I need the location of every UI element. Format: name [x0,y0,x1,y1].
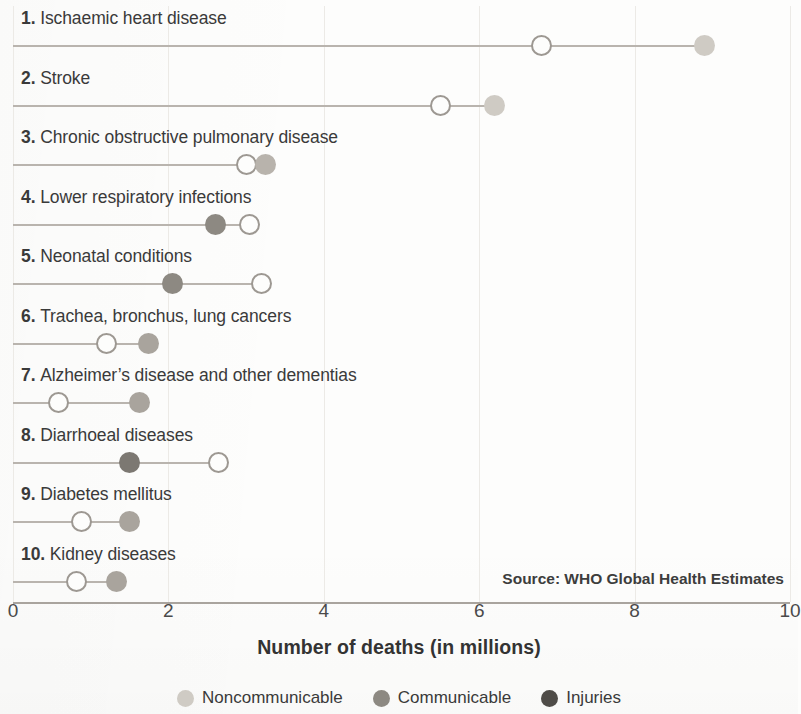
row-track [13,283,262,285]
row-rank: 2. [21,68,40,88]
legend-swatch-icon [373,690,390,707]
legend-swatch-icon [541,690,558,707]
row-label: 7. Alzheimer’s disease and other dementi… [21,365,357,386]
data-point-filled[interactable] [119,452,140,473]
data-point-filled[interactable] [162,273,183,294]
row-track [13,581,116,583]
data-point-hollow[interactable] [71,511,92,532]
row-track [13,45,705,47]
x-tick-label: 0 [8,600,19,622]
chart-row: 6. Trachea, bronchus, lung cancers [13,306,790,366]
row-track [13,462,219,464]
row-track [13,343,149,345]
row-label: 3. Chronic obstructive pulmonary disease [21,127,338,148]
chart-row: 7. Alzheimer’s disease and other dementi… [13,365,790,425]
row-label: 10. Kidney diseases [21,544,176,565]
data-point-hollow[interactable] [251,273,272,294]
data-point-filled[interactable] [694,35,715,56]
row-label: 6. Trachea, bronchus, lung cancers [21,306,291,327]
row-label: 5. Neonatal conditions [21,246,192,267]
row-name: Alzheimer’s disease and other dementias [40,365,356,385]
row-label: 8. Diarrhoeal diseases [21,425,193,446]
row-rank: 4. [21,187,40,207]
data-point-hollow[interactable] [96,333,117,354]
x-tick-label: 2 [163,600,174,622]
row-label: 4. Lower respiratory infections [21,187,251,208]
row-track [13,164,266,166]
row-name: Lower respiratory infections [40,187,251,207]
x-tick-label: 10 [779,600,800,622]
legend-swatch-icon [177,690,194,707]
chart-row: 4. Lower respiratory infections [13,187,790,247]
row-name: Ischaemic heart disease [40,8,226,28]
row-label: 9. Diabetes mellitus [21,484,172,505]
legend-item[interactable]: Injuries [541,688,621,708]
row-name: Chronic obstructive pulmonary disease [40,127,338,147]
row-name: Stroke [40,68,90,88]
gridline [790,6,791,602]
row-rank: 5. [21,246,40,266]
source-note: Source: WHO Global Health Estimates [502,570,784,588]
row-name: Diabetes mellitus [40,484,172,504]
chart-row: 9. Diabetes mellitus [13,484,790,544]
legend-item[interactable]: Noncommunicable [177,688,343,708]
data-point-filled[interactable] [484,95,505,116]
row-label: 1. Ischaemic heart disease [21,8,227,29]
row-rank: 1. [21,8,40,28]
plot-area: 1. Ischaemic heart disease2. Stroke3. Ch… [13,6,790,602]
row-name: Diarrhoeal diseases [40,425,193,445]
row-rank: 7. [21,365,40,385]
data-point-filled[interactable] [129,392,150,413]
row-rank: 6. [21,306,40,326]
row-rank: 9. [21,484,40,504]
row-rank: 3. [21,127,40,147]
row-name: Neonatal conditions [40,246,192,266]
row-name: Trachea, bronchus, lung cancers [40,306,291,326]
data-point-filled[interactable] [119,511,140,532]
data-point-filled[interactable] [255,154,276,175]
x-axis-line [13,602,790,604]
data-point-hollow[interactable] [48,392,69,413]
legend-label: Noncommunicable [202,688,343,708]
chart-row: 5. Neonatal conditions [13,246,790,306]
row-name: Kidney diseases [50,544,176,564]
x-axis-title: Number of deaths (in millions) [0,636,798,659]
chart-row: 1. Ischaemic heart disease [13,8,790,68]
chart-row: 8. Diarrhoeal diseases [13,425,790,485]
x-tick-label: 8 [629,600,640,622]
chart-legend: NoncommunicableCommunicableInjuries [0,688,798,708]
row-track [13,402,140,404]
x-tick-label: 6 [474,600,485,622]
row-label: 2. Stroke [21,68,90,89]
data-point-hollow[interactable] [208,452,229,473]
chart-row: 3. Chronic obstructive pulmonary disease [13,127,790,187]
chart-row: 2. Stroke [13,68,790,128]
data-point-filled[interactable] [205,214,226,235]
data-point-hollow[interactable] [236,154,257,175]
legend-label: Communicable [398,688,511,708]
row-rank: 10. [21,544,50,564]
row-rank: 8. [21,425,40,445]
row-track [13,105,495,107]
data-point-filled[interactable] [106,571,127,592]
data-point-hollow[interactable] [531,35,552,56]
legend-item[interactable]: Communicable [373,688,511,708]
data-point-filled[interactable] [138,333,159,354]
x-tick-label: 4 [319,600,330,622]
legend-label: Injuries [566,688,621,708]
data-point-hollow[interactable] [66,571,87,592]
data-point-hollow[interactable] [430,95,451,116]
data-point-hollow[interactable] [239,214,260,235]
